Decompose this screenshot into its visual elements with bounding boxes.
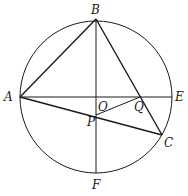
geometry-diagram: ABEFOPQC bbox=[0, 0, 188, 196]
label-point-e: E bbox=[174, 90, 184, 104]
label-point-b: B bbox=[90, 3, 100, 17]
segment-bc bbox=[96, 19, 162, 135]
label-point-a: A bbox=[3, 90, 13, 104]
label-point-f: F bbox=[91, 178, 101, 192]
label-point-p: P bbox=[86, 115, 96, 129]
label-point-q: Q bbox=[134, 100, 144, 114]
label-point-o: O bbox=[98, 100, 108, 114]
label-point-c: C bbox=[164, 136, 173, 150]
